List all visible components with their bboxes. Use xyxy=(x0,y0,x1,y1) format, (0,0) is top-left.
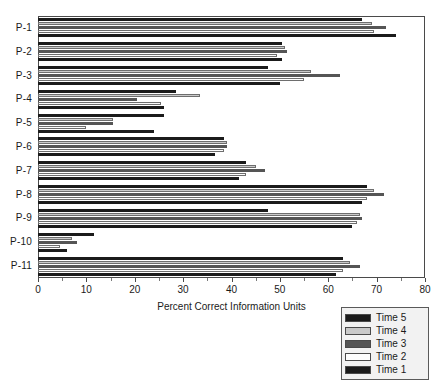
bar-p-5-time-4 xyxy=(38,118,113,121)
bar-p-8-time-5 xyxy=(38,185,367,188)
bar-p-3-time-5 xyxy=(38,66,268,69)
bar-p-4-time-1 xyxy=(38,106,164,109)
bar-p-9-time-4 xyxy=(38,213,360,216)
x-tick-50 xyxy=(280,278,281,282)
bar-p-1-time-1 xyxy=(38,34,396,37)
x-tick-label-10: 10 xyxy=(81,284,92,295)
x-tick-label-20: 20 xyxy=(129,284,140,295)
y-tick-label-p-2: P-2 xyxy=(16,47,32,57)
bar-p-8-time-3 xyxy=(38,193,384,196)
x-tick-30 xyxy=(183,278,184,282)
bar-p-9-time-5 xyxy=(38,209,268,212)
y-tick-label-p-7: P-7 xyxy=(16,166,32,176)
bar-p-8-time-2 xyxy=(38,197,367,200)
x-tick-label-30: 30 xyxy=(178,284,189,295)
x-tick-label-80: 80 xyxy=(419,284,430,295)
legend-item-time-4: Time 4 xyxy=(345,324,425,337)
bar-p-5-time-5 xyxy=(38,114,164,117)
x-tick-70 xyxy=(377,278,378,282)
x-tick-80 xyxy=(425,278,426,282)
bar-p-2-time-2 xyxy=(38,54,277,57)
bar-p-3-time-2 xyxy=(38,78,304,81)
bar-p-4-time-2 xyxy=(38,102,161,105)
bar-p-6-time-3 xyxy=(38,145,227,148)
bar-p-11-time-2 xyxy=(38,269,343,272)
bar-group-p-1 xyxy=(38,16,425,40)
bar-p-7-time-1 xyxy=(38,177,239,180)
bar-group-p-2 xyxy=(38,40,425,64)
x-tick-label-70: 70 xyxy=(371,284,382,295)
legend-swatch-time-5 xyxy=(345,314,371,322)
bar-p-2-time-1 xyxy=(38,58,282,61)
bar-p-3-time-1 xyxy=(38,82,280,85)
bar-group-p-9 xyxy=(38,207,425,231)
x-tick-label-40: 40 xyxy=(226,284,237,295)
x-tick-40 xyxy=(232,278,233,282)
bar-p-2-time-3 xyxy=(38,50,287,53)
x-tick-minor-45 xyxy=(256,278,257,281)
y-tick-label-p-11: P-11 xyxy=(11,261,32,271)
bar-p-9-time-2 xyxy=(38,221,357,224)
bar-p-11-time-4 xyxy=(38,261,350,264)
legend-label-time-5: Time 5 xyxy=(376,312,406,323)
bar-p-7-time-4 xyxy=(38,165,256,168)
bar-chart: P-1P-2P-3P-4P-5P-6P-7P-8P-9P-10P-11 0102… xyxy=(0,0,432,387)
x-tick-label-0: 0 xyxy=(35,284,41,295)
legend-item-time-3: Time 3 xyxy=(345,337,425,350)
bar-p-9-time-3 xyxy=(38,217,362,220)
bar-group-p-4 xyxy=(38,87,425,111)
y-tick-label-p-4: P-4 xyxy=(16,94,32,104)
bar-p-11-time-1 xyxy=(38,273,336,276)
bar-group-p-6 xyxy=(38,135,425,159)
bar-p-4-time-3 xyxy=(38,98,137,101)
x-tick-minor-35 xyxy=(207,278,208,281)
legend-item-time-2: Time 2 xyxy=(345,350,425,363)
bar-group-p-10 xyxy=(38,230,425,254)
legend-swatch-time-4 xyxy=(345,327,371,335)
bar-p-2-time-4 xyxy=(38,46,285,49)
bars-layer xyxy=(38,16,425,278)
x-tick-0 xyxy=(38,278,39,282)
bar-p-1-time-5 xyxy=(38,18,362,21)
bar-group-p-11 xyxy=(38,254,425,278)
bar-p-11-time-3 xyxy=(38,265,360,268)
x-tick-20 xyxy=(135,278,136,282)
bar-p-3-time-4 xyxy=(38,70,311,73)
y-tick-label-p-5: P-5 xyxy=(16,118,32,128)
bar-p-7-time-5 xyxy=(38,161,246,164)
y-axis-labels: P-1P-2P-3P-4P-5P-6P-7P-8P-9P-10P-11 xyxy=(0,16,36,278)
bar-p-11-time-5 xyxy=(38,257,343,260)
y-tick-label-p-3: P-3 xyxy=(16,71,32,81)
bar-p-4-time-4 xyxy=(38,94,200,97)
bar-p-1-time-4 xyxy=(38,22,372,25)
bar-p-3-time-3 xyxy=(38,74,340,77)
legend-swatch-time-3 xyxy=(345,340,371,348)
x-tick-minor-25 xyxy=(159,278,160,281)
bar-p-10-time-3 xyxy=(38,241,77,244)
bar-p-8-time-4 xyxy=(38,189,374,192)
bar-p-6-time-2 xyxy=(38,149,224,152)
bar-group-p-3 xyxy=(38,64,425,88)
chart-legend: Time 5Time 4Time 3Time 2Time 1 xyxy=(341,307,429,380)
y-tick-label-p-8: P-8 xyxy=(16,190,32,200)
bar-p-9-time-1 xyxy=(38,225,352,228)
bar-group-p-8 xyxy=(38,183,425,207)
y-tick-label-p-1: P-1 xyxy=(16,23,32,33)
x-tick-minor-65 xyxy=(352,278,353,281)
y-tick-label-p-10: P-10 xyxy=(10,237,32,247)
x-tick-label-50: 50 xyxy=(274,284,285,295)
legend-label-time-3: Time 3 xyxy=(376,338,406,349)
bar-p-1-time-3 xyxy=(38,26,386,29)
bar-p-6-time-1 xyxy=(38,153,215,156)
x-tick-minor-55 xyxy=(304,278,305,281)
bar-p-10-time-5 xyxy=(38,233,94,236)
bar-p-10-time-2 xyxy=(38,245,60,248)
legend-item-time-5: Time 5 xyxy=(345,311,425,324)
x-tick-minor-5 xyxy=(62,278,63,281)
bar-group-p-5 xyxy=(38,111,425,135)
x-tick-10 xyxy=(86,278,87,282)
legend-label-time-1: Time 1 xyxy=(376,364,406,375)
bar-p-10-time-4 xyxy=(38,237,72,240)
legend-swatch-time-2 xyxy=(345,353,371,361)
bar-p-7-time-3 xyxy=(38,169,265,172)
